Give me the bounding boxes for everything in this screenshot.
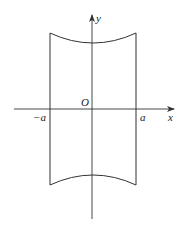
neg-a-label: −a <box>33 111 46 123</box>
pos-a-label: a <box>140 111 146 123</box>
diagram-canvas: y x O −a a <box>0 0 186 233</box>
x-axis-label: x <box>167 111 173 123</box>
origin-label: O <box>81 96 89 108</box>
y-axis-label: y <box>95 12 101 24</box>
bottom-boundary-curve <box>50 175 136 185</box>
top-boundary-curve <box>50 33 136 43</box>
